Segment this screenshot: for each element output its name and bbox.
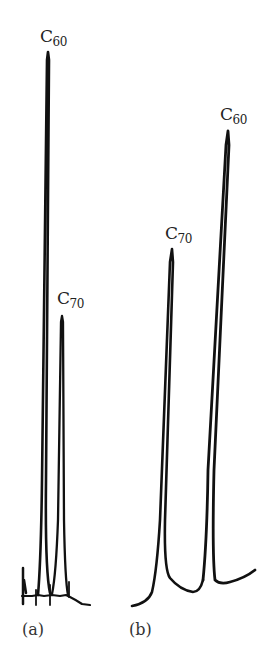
panel-b-c60-peak [203,131,255,583]
panel-a-injection-mark [23,568,26,604]
panel-b-label: (b) [129,620,152,639]
c70-label-subscript: 70 [70,297,84,311]
panel-b-c60-label: C60 [220,104,247,127]
panel-b-c70-peak [132,249,203,606]
panel-a-c60-peak [38,52,50,595]
chromatogram-figure: C60 C70 (a) C70 C60 (b) [0,0,276,669]
c60-label-base: C [40,26,53,46]
c60-label-subscript: 60 [53,35,67,49]
c60-label-base: C [220,104,233,124]
panel-a-trace [22,52,90,605]
c60-label-subscript: 60 [233,113,247,127]
panel-a-baseline [22,595,90,605]
panel-a-c60-label: C60 [40,26,67,49]
chromatogram-traces [0,0,276,669]
panel-a-c70-label: C70 [57,288,84,311]
c70-label-subscript: 70 [178,232,192,246]
c70-label-base: C [57,288,70,308]
panel-b-trace [132,131,255,606]
panel-a-c70-peak [52,316,68,595]
panel-b-c70-label: C70 [165,223,192,246]
c70-label-base: C [165,223,178,243]
panel-a-label: (a) [22,620,44,639]
